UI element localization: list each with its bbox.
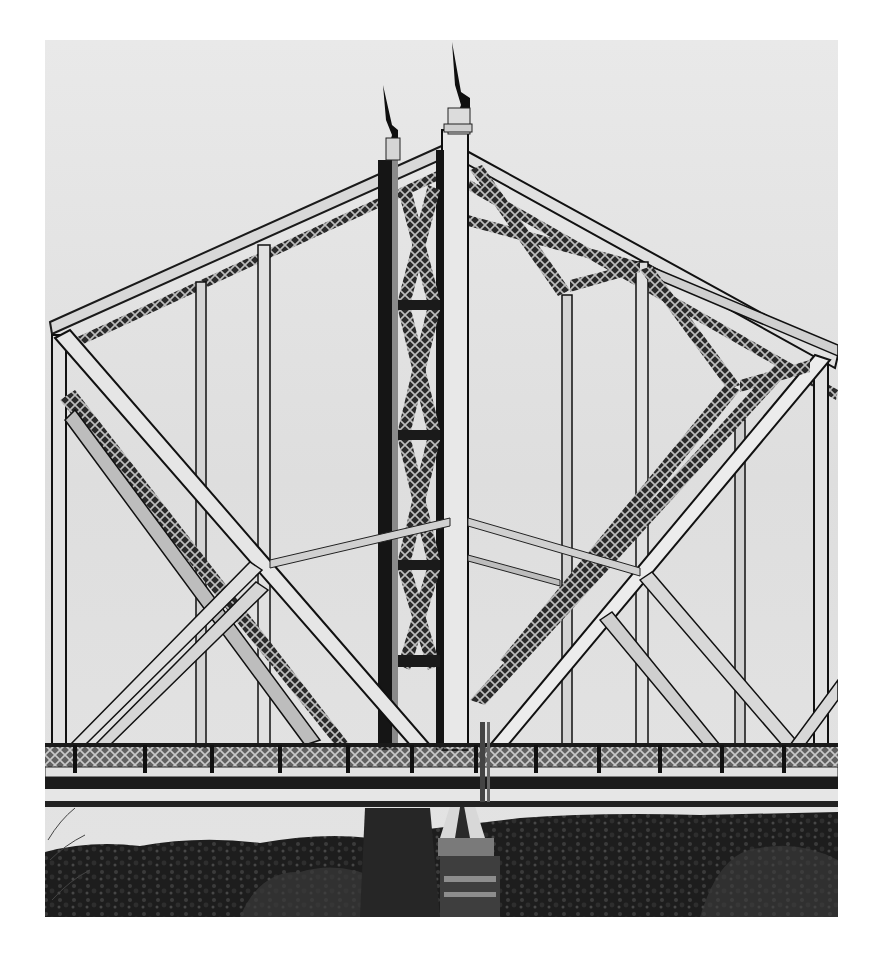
- railing: [45, 747, 838, 767]
- photo-canvas: [45, 40, 838, 917]
- bridge-photograph: Close view of a steel truss bridge with …: [45, 40, 838, 917]
